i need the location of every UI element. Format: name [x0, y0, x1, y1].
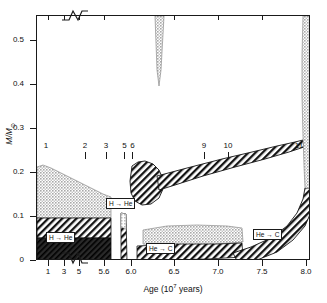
- y-tick-0.4: [30, 84, 36, 85]
- x-ticklabel-5: 5: [69, 267, 89, 276]
- x-ticklabel-7.5: 7.5: [251, 267, 273, 276]
- y-ticklabel-0.2: 0.2: [0, 167, 24, 176]
- region-label-h-to-he-right: H → He: [106, 198, 135, 209]
- y-tick-0.5: [30, 40, 36, 41]
- y-axis-label-subscript: ⊙: [10, 123, 16, 128]
- y-tick-0: [30, 260, 36, 261]
- region-label-h-to-he-left: H → He: [46, 232, 75, 243]
- y-axis-label-main: M/M: [4, 128, 14, 145]
- y-axis-label: M/M⊙: [4, 112, 16, 156]
- y-tick-0.2: [30, 172, 36, 173]
- y-tick-0.1: [30, 216, 36, 217]
- x-ticklabel-6.5: 6.5: [163, 267, 185, 276]
- x-axis-break-zigzag: [62, 252, 88, 268]
- x-ticklabel-5.6: 5.6: [93, 267, 115, 276]
- plot-clip: [37, 16, 309, 259]
- figure-stellar-convection: 0 0.1 0.2 0.3 0.4 0.5 1 3 5 5.6 6.0 6.5 …: [0, 0, 327, 303]
- phase-marker-1: 1: [38, 141, 54, 150]
- x-axis-label: Age (107 years): [36, 283, 310, 294]
- top-axis-break-zigzag: [62, 8, 88, 22]
- x-tick-6.5: [174, 260, 175, 266]
- scan-artifact-strip: [0, 0, 327, 9]
- y-ticklabel-0.1: 0.1: [0, 211, 24, 220]
- y-tick-0.3: [30, 128, 36, 129]
- region-hecore-grey: [143, 225, 243, 245]
- region-sliver-hshell: [121, 213, 127, 259]
- phase-marker-6: 6: [127, 141, 138, 150]
- region-right-envelope: [302, 16, 309, 188]
- x-tick-7.5: [262, 260, 263, 266]
- phase-marker-10: 10: [219, 141, 237, 150]
- x-ticklabel-6.0: 6.0: [120, 267, 142, 276]
- x-tick-1: [48, 260, 49, 266]
- y-ticklabel-0.4: 0.4: [0, 79, 24, 88]
- x-tick-top-7.0: [218, 15, 219, 20]
- x-tick-top-1: [48, 15, 49, 20]
- phase-marker-2: 2: [77, 141, 93, 150]
- phase-tick-3: [106, 152, 107, 159]
- y-ticklabel-0: 0: [0, 255, 24, 264]
- region-label-he-to-c-right: He → C: [253, 229, 282, 240]
- region-hec-crescent: [233, 188, 309, 259]
- plot-canvas: [37, 16, 309, 259]
- x-tick-top-5.6: [104, 15, 105, 20]
- region-left-envelope: [37, 165, 111, 218]
- x-ticklabel-7.0: 7.0: [207, 267, 229, 276]
- phase-tick-6: [132, 152, 133, 159]
- phase-marker-11: 11: [290, 141, 308, 150]
- x-tick-8.0: [306, 260, 307, 266]
- x-tick-top-6.5: [174, 15, 175, 20]
- phase-tick-5: [124, 152, 125, 159]
- phase-tick-9: [204, 152, 205, 159]
- phase-marker-9: 9: [196, 141, 212, 150]
- x-tick-5.6: [104, 260, 105, 266]
- x-ticklabel-8.0: 8.0: [295, 267, 317, 276]
- plot-area: [36, 15, 310, 260]
- x-tick-top-7.5: [262, 15, 263, 20]
- region-top-spike: [155, 16, 164, 86]
- region-label-he-to-c-mid: He → C: [146, 243, 175, 254]
- x-tick-6.0: [131, 260, 132, 266]
- phase-marker-3: 3: [98, 141, 114, 150]
- x-axis-label-tail: years): [177, 284, 203, 294]
- phase-tick-2: [85, 152, 86, 159]
- y-ticklabel-0.5: 0.5: [0, 35, 24, 44]
- x-axis-label-main: Age (10: [143, 284, 173, 294]
- phase-tick-10: [228, 152, 229, 159]
- x-tick-7.0: [218, 260, 219, 266]
